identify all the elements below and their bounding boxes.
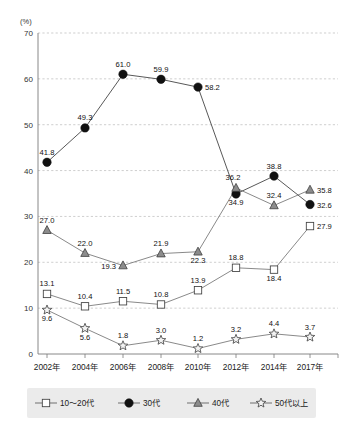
data-label-s1-p3: 59.9 bbox=[154, 65, 169, 74]
data-label-s0-p6: 18.4 bbox=[267, 274, 282, 283]
series-3-marker-1 bbox=[80, 323, 90, 332]
series-0-marker-5 bbox=[232, 264, 239, 271]
series-0-marker-2 bbox=[119, 298, 126, 305]
data-label-s1-p4: 58.2 bbox=[205, 83, 220, 92]
x-axis-tick-label-3: 2008年 bbox=[148, 362, 174, 372]
data-label-s1-p2: 61.0 bbox=[116, 60, 131, 69]
data-value-labels-group: 13.110.411.510.813.918.818.427.941.849.3… bbox=[40, 60, 332, 343]
legend-label-3: 50代以上 bbox=[275, 398, 308, 408]
data-label-s2-p3: 21.9 bbox=[154, 239, 169, 248]
data-label-s2-p6: 32.4 bbox=[267, 191, 282, 200]
series-2-marker-7 bbox=[306, 185, 314, 193]
series-1-marker-1 bbox=[81, 124, 89, 132]
data-label-s3-p5: 3.2 bbox=[231, 325, 242, 334]
series-2-marker-6 bbox=[270, 201, 278, 209]
legend-label-1: 30代 bbox=[143, 398, 160, 408]
series-0-marker-1 bbox=[81, 303, 88, 310]
data-label-s0-p5: 18.8 bbox=[229, 253, 244, 262]
y-axis-unit-label: (%) bbox=[20, 17, 32, 26]
data-label-s0-p4: 13.9 bbox=[191, 276, 206, 285]
series-0-marker-3 bbox=[157, 301, 164, 308]
line-chart-figure: 010203040506070 2002年2004年2006年2008年2010… bbox=[0, 0, 341, 435]
series-3-marker-2 bbox=[118, 341, 128, 350]
x-axis-tick-labels: 2002年2004年2006年2008年2010年2012年2014年2017年 bbox=[34, 362, 323, 372]
series-0-marker-7 bbox=[306, 222, 313, 229]
data-label-s3-p6: 4.4 bbox=[269, 319, 280, 328]
data-label-s1-p1: 49.3 bbox=[78, 113, 93, 122]
data-label-s3-p3: 3.0 bbox=[156, 326, 167, 335]
series-1-marker-6 bbox=[270, 172, 278, 180]
series-1-marker-2 bbox=[119, 70, 127, 78]
series-0-marker-4 bbox=[194, 287, 201, 294]
series-line-1 bbox=[47, 74, 310, 204]
y-axis-tick-labels: 010203040506070 bbox=[24, 29, 33, 359]
data-label-s3-p7: 3.7 bbox=[305, 323, 316, 332]
data-label-s0-p7: 27.9 bbox=[317, 222, 332, 231]
data-label-s3-p0: 9.6 bbox=[42, 314, 53, 323]
y-axis-tick-label: 40 bbox=[24, 167, 33, 176]
series-2-marker-3 bbox=[157, 249, 165, 257]
series-3-marker-5 bbox=[231, 334, 241, 343]
y-axis-tick-label: 0 bbox=[29, 350, 34, 359]
data-label-s0-p3: 10.8 bbox=[154, 290, 169, 299]
series-1-marker-7 bbox=[306, 200, 314, 208]
data-label-s2-p1: 22.0 bbox=[78, 239, 93, 248]
series-3-marker-3 bbox=[156, 335, 166, 344]
x-axis-tick-label-2: 2006年 bbox=[110, 362, 136, 372]
x-axis-tick-label-6: 2014年 bbox=[261, 362, 287, 372]
y-axis-tick-label: 70 bbox=[24, 29, 33, 38]
chart-canvas: 010203040506070 2002年2004年2006年2008年2010… bbox=[0, 0, 341, 435]
legend-label-0: 10〜20代 bbox=[60, 398, 94, 408]
series-2-marker-4 bbox=[194, 247, 202, 255]
x-axis-tick-label-1: 2004年 bbox=[72, 362, 98, 372]
data-label-s0-p0: 13.1 bbox=[40, 279, 55, 288]
series-0-marker-6 bbox=[270, 266, 277, 273]
data-label-s3-p2: 1.8 bbox=[118, 331, 129, 340]
x-axis-tick-label-4: 2010年 bbox=[185, 362, 211, 372]
data-label-s0-p2: 11.5 bbox=[116, 287, 130, 296]
series-1-marker-0 bbox=[43, 158, 51, 166]
x-axis-tick-label-0: 2002年 bbox=[34, 362, 60, 372]
data-label-s2-p2: 19.3 bbox=[101, 262, 116, 271]
legend-item-0[interactable]: 10〜20代 bbox=[35, 398, 94, 408]
legend-label-2: 40代 bbox=[212, 398, 229, 408]
series-2-marker-1 bbox=[81, 249, 89, 257]
series-1-marker-3 bbox=[157, 75, 165, 83]
data-label-s1-p5: 34.9 bbox=[229, 198, 244, 207]
data-label-s3-p1: 5.6 bbox=[80, 333, 91, 342]
data-label-s2-p5: 36.2 bbox=[226, 173, 241, 182]
gridlines-group bbox=[38, 33, 338, 308]
series-2-marker-0 bbox=[43, 226, 51, 234]
y-axis-tick-label: 30 bbox=[24, 212, 33, 221]
chart-legend: 10〜20代30代40代50代以上 bbox=[27, 388, 316, 418]
data-label-s2-p7: 35.8 bbox=[317, 186, 332, 195]
y-axis-tick-label: 20 bbox=[24, 258, 33, 267]
y-axis-tick-label: 50 bbox=[24, 121, 33, 130]
data-label-s0-p1: 10.4 bbox=[78, 292, 93, 301]
series-3-marker-7 bbox=[305, 332, 315, 341]
data-label-s2-p0: 27.0 bbox=[40, 216, 55, 225]
y-axis-tick-label: 60 bbox=[24, 75, 33, 84]
x-axis-tick-label-5: 2012年 bbox=[223, 362, 249, 372]
data-label-s1-p0: 41.8 bbox=[40, 148, 55, 157]
legend-marker-square-open bbox=[42, 399, 49, 406]
series-0-marker-0 bbox=[43, 290, 50, 297]
data-label-s3-p4: 1.2 bbox=[193, 334, 204, 343]
series-3-marker-6 bbox=[269, 329, 279, 338]
data-label-s1-p6: 38.8 bbox=[267, 162, 282, 171]
series-3-marker-0 bbox=[42, 305, 52, 314]
legend-marker-circle-filled bbox=[125, 399, 133, 407]
x-axis-tick-label-7: 2017年 bbox=[297, 362, 323, 372]
data-label-s2-p4: 22.3 bbox=[191, 256, 206, 265]
series-1-marker-4 bbox=[194, 83, 202, 91]
series-3-marker-4 bbox=[193, 344, 203, 353]
data-label-s1-p7: 32.6 bbox=[317, 201, 332, 210]
y-axis-tick-label: 10 bbox=[24, 304, 33, 313]
